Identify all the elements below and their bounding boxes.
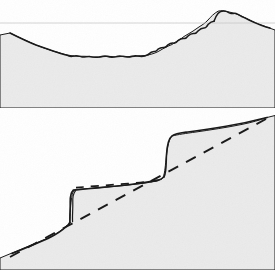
upper-profile-svg [0, 0, 275, 108]
lower-ground-fill [0, 116, 275, 270]
figure-root [0, 0, 275, 270]
panel-lower-profile [0, 108, 275, 270]
panel-upper-profile [0, 0, 275, 108]
upper-ground-fill [0, 11, 275, 108]
lower-profile-svg [0, 108, 275, 270]
